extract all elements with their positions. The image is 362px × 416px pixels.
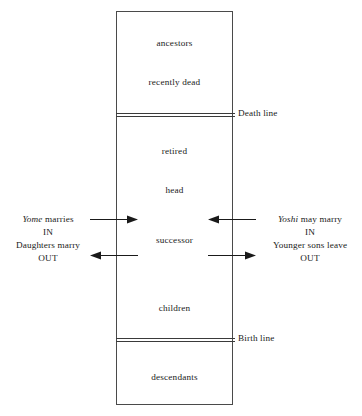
left-annotation-term: Yome: [22, 214, 42, 224]
left-annotation-line-4: OUT: [6, 252, 90, 265]
diagram-canvas: ancestors recently dead retired head suc…: [0, 0, 362, 416]
left-annotation: Yome marries IN Daughters marry OUT: [6, 213, 90, 265]
left-annotation-line-1: Yome marries: [6, 213, 90, 226]
birth-line-rule: [116, 338, 235, 342]
right-annotation-line-2: IN: [262, 226, 358, 239]
arrow-younger-sons-leave-out-icon: [208, 251, 256, 260]
death-line-rule: [116, 113, 235, 117]
stage-label-ancestors: ancestors: [116, 38, 233, 48]
right-annotation-line-1-rest: may marry: [298, 214, 342, 224]
arrow-yoshi-may-marry-in-icon: [208, 215, 256, 224]
death-line-label: Death line: [238, 108, 278, 118]
arrow-daughters-marry-out-icon: [90, 251, 138, 260]
stage-label-successor: successor: [116, 235, 233, 245]
stage-label-children: children: [116, 303, 233, 313]
stage-label-recently-dead: recently dead: [116, 77, 233, 87]
right-annotation-line-4: OUT: [262, 252, 358, 265]
right-annotation-line-1: Yoshi may marry: [262, 213, 358, 226]
left-annotation-line-3: Daughters marry: [6, 239, 90, 252]
right-annotation-term: Yoshi: [278, 214, 298, 224]
left-annotation-line-2: IN: [6, 226, 90, 239]
right-annotation-line-3: Younger sons leave: [262, 239, 358, 252]
stage-label-descendants: descendants: [116, 372, 233, 382]
right-annotation: Yoshi may marry IN Younger sons leave OU…: [262, 213, 358, 265]
birth-line-label: Birth line: [238, 333, 274, 343]
left-annotation-line-1-rest: marries: [43, 214, 74, 224]
arrow-yome-marries-in-icon: [90, 215, 138, 224]
stage-label-retired: retired: [116, 146, 233, 156]
household-box: [116, 11, 233, 405]
stage-label-head: head: [116, 185, 233, 195]
